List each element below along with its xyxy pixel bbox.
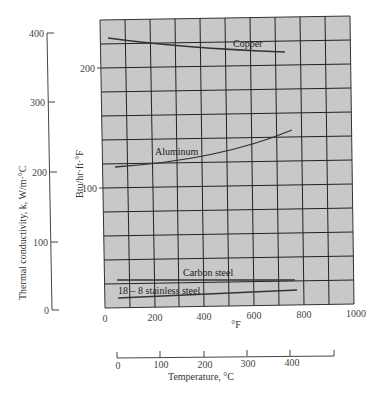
c-tick-100: 100 <box>154 359 169 370</box>
c-axis-title: Temperature, °C <box>168 371 234 382</box>
btu-axis: 200 100 Btu/hr·ft·°F <box>74 63 103 198</box>
stainless-steel-label: 18 – 8 stainless steel <box>118 285 200 296</box>
btu-tick-200: 200 <box>80 63 95 74</box>
w-tick-0: 0 <box>44 305 49 316</box>
w-tick-100: 100 <box>33 237 48 248</box>
f-tick-1000: 1000 <box>346 308 366 319</box>
f-tick-800: 800 <box>297 309 312 320</box>
thermal-conductivity-chart: Copper Aluminum Carbon steel 18 – 8 stai… <box>0 0 382 393</box>
c-tick-200: 200 <box>198 359 213 370</box>
btu-axis-title: Btu/hr·ft·°F <box>74 150 85 198</box>
f-tick-0: 0 <box>103 313 108 324</box>
f-axis-title: °F <box>231 319 241 330</box>
plot-area <box>100 16 354 308</box>
f-tick-400: 400 <box>197 311 212 322</box>
w-tick-400: 400 <box>29 28 44 39</box>
f-tick-600: 600 <box>247 310 262 321</box>
w-tick-200: 200 <box>32 167 47 178</box>
w-tick-300: 300 <box>30 97 45 108</box>
c-tick-300: 300 <box>241 358 256 369</box>
copper-label: Copper <box>233 38 263 49</box>
c-tick-0: 0 <box>116 360 121 371</box>
c-tick-400: 400 <box>285 357 300 368</box>
f-tick-200: 200 <box>148 312 163 323</box>
f-axis: 0 200 400 600 800 1000 °F <box>103 308 367 330</box>
aluminum-label: Aluminum <box>155 146 199 157</box>
w-axis-title: Thermal conductivity, k, W/m·°C <box>17 165 28 300</box>
w-axis: 400 300 200 100 0 Thermal conductivity, … <box>17 28 59 316</box>
carbon-steel-label: Carbon steel <box>183 267 233 278</box>
c-axis: 0 100 200 300 400 Temperature, °C <box>116 350 335 382</box>
